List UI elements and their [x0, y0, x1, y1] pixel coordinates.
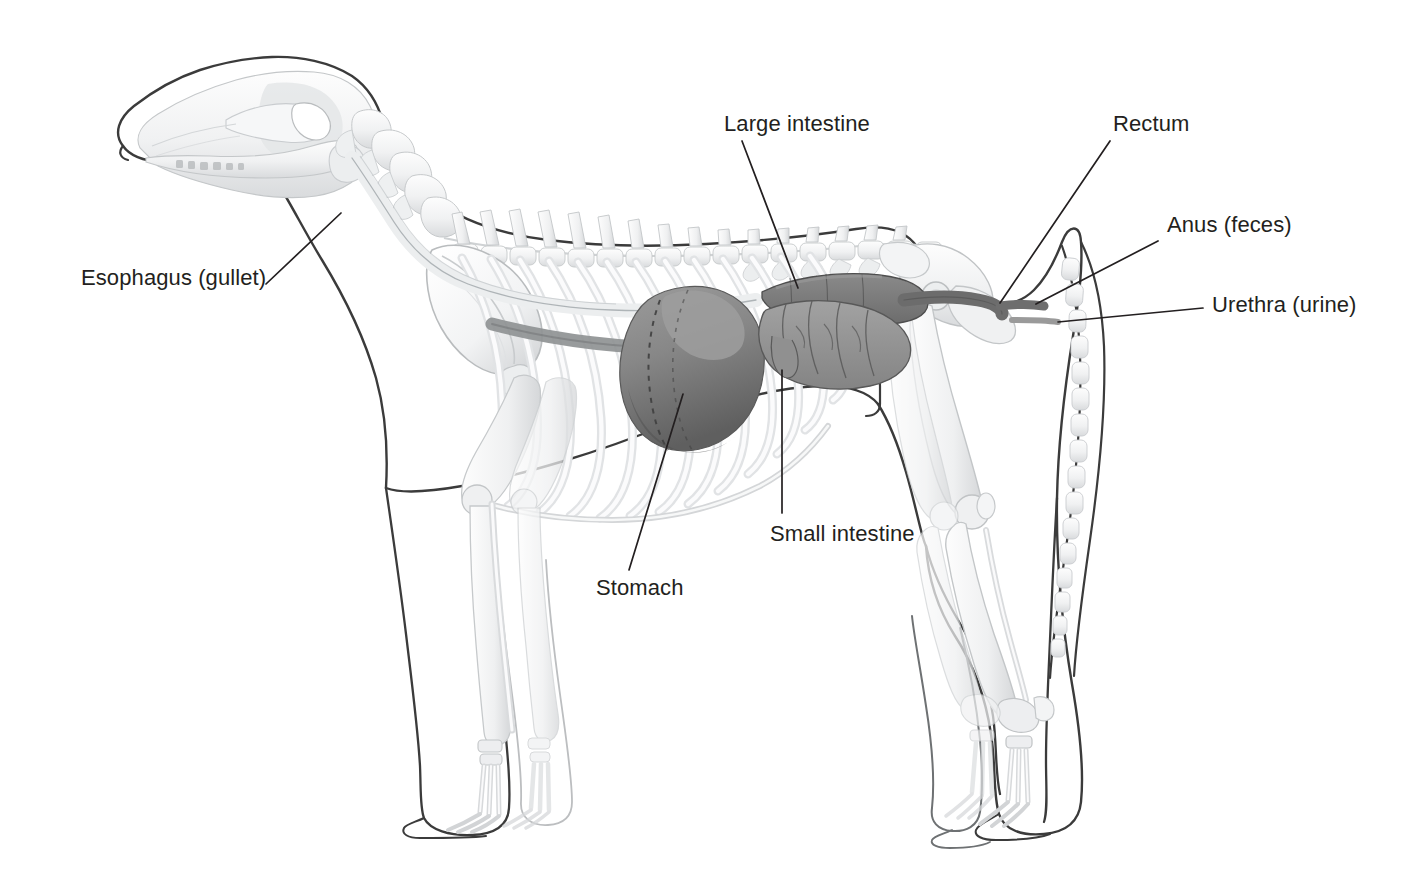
- label-large-intestine: Large intestine: [724, 111, 870, 137]
- diagram-page: Esophagus (gullet) Large intestine Rectu…: [0, 0, 1405, 884]
- label-esophagus: Esophagus (gullet): [81, 265, 266, 291]
- label-anus: Anus (feces): [1167, 212, 1292, 238]
- label-rectum: Rectum: [1113, 111, 1189, 137]
- label-stomach: Stomach: [596, 575, 684, 601]
- skeleton-group: [138, 71, 1089, 832]
- dog-anatomy-illustration: [0, 0, 1405, 884]
- label-small-intestine: Small intestine: [770, 521, 915, 547]
- label-urethra: Urethra (urine): [1212, 292, 1357, 318]
